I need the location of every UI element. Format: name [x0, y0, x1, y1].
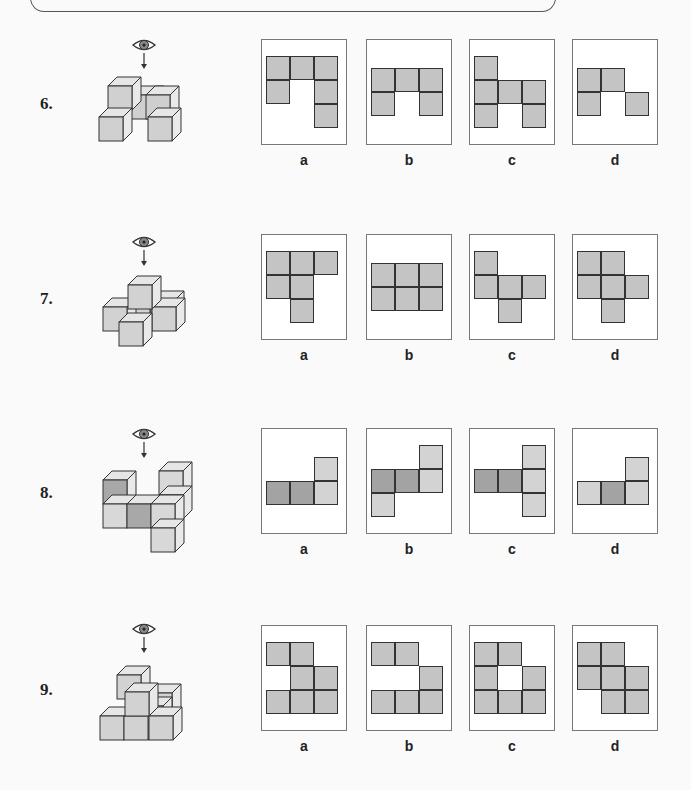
top-view-box[interactable] [572, 428, 658, 534]
top-view-box[interactable] [366, 428, 452, 534]
answer-option-b[interactable]: b [366, 625, 452, 754]
answer-option-a[interactable]: a [261, 234, 347, 363]
grid-cell [498, 690, 522, 714]
grid-cell [601, 481, 625, 505]
grid-cell [474, 275, 498, 299]
top-view-box[interactable] [366, 625, 452, 731]
answer-option-a[interactable]: a [261, 39, 347, 168]
option-label: d [572, 347, 658, 363]
grid-cell [371, 287, 395, 311]
grid-cell [601, 690, 625, 714]
grid-cell [371, 469, 395, 493]
grid-cell [314, 104, 338, 128]
grid-cell [371, 493, 395, 517]
grid-cell [625, 666, 649, 690]
top-view-box[interactable] [261, 428, 347, 534]
option-label: b [366, 347, 452, 363]
grid-cell [266, 275, 290, 299]
top-view-box[interactable] [366, 234, 452, 340]
grid-cell [266, 690, 290, 714]
grid-cell [419, 666, 443, 690]
top-view-box[interactable] [572, 625, 658, 731]
option-label: a [261, 347, 347, 363]
answer-option-a[interactable]: a [261, 625, 347, 754]
option-label: d [572, 152, 658, 168]
grid-cell [266, 251, 290, 275]
cube-figure [90, 230, 210, 374]
answer-option-c[interactable]: c [469, 428, 555, 557]
grid-cell [314, 457, 338, 481]
grid-cell [314, 56, 338, 80]
grid-cell [419, 92, 443, 116]
answer-option-c[interactable]: c [469, 625, 555, 754]
grid-cell [266, 481, 290, 505]
top-view-box[interactable] [261, 39, 347, 145]
grid-cell [577, 251, 601, 275]
answer-option-b[interactable]: b [366, 234, 452, 363]
grid-cell [625, 481, 649, 505]
question-number: 6. [40, 94, 53, 114]
grid-cell [314, 80, 338, 104]
grid-cell [498, 469, 522, 493]
question-number: 9. [40, 680, 53, 700]
top-view-box[interactable] [261, 625, 347, 731]
grid-cell [474, 56, 498, 80]
grid-cell [625, 275, 649, 299]
answer-option-a[interactable]: a [261, 428, 347, 557]
grid-cell [266, 80, 290, 104]
answer-option-b[interactable]: b [366, 428, 452, 557]
grid-cell [498, 80, 522, 104]
grid-cell [290, 56, 314, 80]
grid-cell [419, 469, 443, 493]
top-view-box[interactable] [469, 39, 555, 145]
answer-option-b[interactable]: b [366, 39, 452, 168]
option-label: b [366, 152, 452, 168]
answer-option-c[interactable]: c [469, 39, 555, 168]
cube-figure [90, 621, 210, 765]
grid-cell [474, 104, 498, 128]
grid-cell [474, 469, 498, 493]
grid-cell [290, 666, 314, 690]
grid-cell [522, 445, 546, 469]
grid-cell [522, 690, 546, 714]
eye-icon [90, 230, 210, 370]
answer-option-d[interactable]: d [572, 234, 658, 363]
top-view-box[interactable] [366, 39, 452, 145]
header-frame [30, 0, 556, 12]
top-view-box[interactable] [572, 234, 658, 340]
answer-option-c[interactable]: c [469, 234, 555, 363]
grid-cell [290, 251, 314, 275]
option-label: a [261, 541, 347, 557]
grid-cell [601, 666, 625, 690]
top-view-box[interactable] [572, 39, 658, 145]
grid-cell [371, 92, 395, 116]
grid-cell [266, 642, 290, 666]
option-label: d [572, 738, 658, 754]
eye-icon [90, 621, 210, 761]
grid-cell [498, 299, 522, 323]
grid-cell [371, 263, 395, 287]
grid-cell [290, 275, 314, 299]
question-number: 7. [40, 289, 53, 309]
option-label: a [261, 738, 347, 754]
grid-cell [419, 68, 443, 92]
grid-cell [601, 642, 625, 666]
top-view-box[interactable] [469, 428, 555, 534]
grid-cell [577, 481, 601, 505]
grid-cell [266, 56, 290, 80]
question-number: 8. [40, 483, 53, 503]
answer-option-d[interactable]: d [572, 625, 658, 754]
answer-option-d[interactable]: d [572, 428, 658, 557]
top-view-box[interactable] [261, 234, 347, 340]
grid-cell [625, 690, 649, 714]
option-label: c [469, 541, 555, 557]
grid-cell [314, 690, 338, 714]
option-label: c [469, 347, 555, 363]
grid-cell [522, 493, 546, 517]
grid-cell [522, 80, 546, 104]
grid-cell [474, 80, 498, 104]
option-label: c [469, 738, 555, 754]
top-view-box[interactable] [469, 234, 555, 340]
answer-option-d[interactable]: d [572, 39, 658, 168]
top-view-box[interactable] [469, 625, 555, 731]
